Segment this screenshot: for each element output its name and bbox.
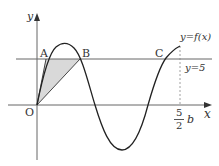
y-axis-label: y (27, 11, 33, 22)
function-graph-diagram: y x O A B C y=f(x) y=5 5 2 b (0, 0, 219, 166)
curve-label: y=f(x) (180, 32, 211, 42)
point-A-label: A (40, 48, 48, 59)
line-label: y=5 (185, 63, 205, 73)
graph-canvas (0, 0, 219, 166)
x-axis-label: x (204, 108, 211, 120)
origin-label: O (25, 107, 34, 118)
tick-numerator: 5 (176, 108, 182, 118)
tick-variable: b (187, 114, 194, 125)
y-axis-arrow-icon (34, 13, 40, 21)
point-B-label: B (82, 48, 90, 59)
tick-denominator: 2 (176, 121, 182, 131)
point-C-label: C (155, 48, 163, 59)
